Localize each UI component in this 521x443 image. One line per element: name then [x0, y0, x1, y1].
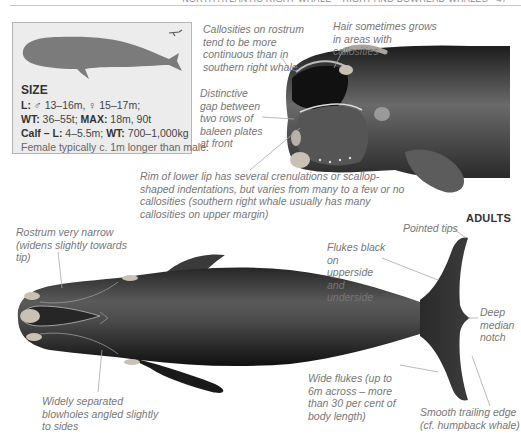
annotation-wide-flukes: Wide flukes (up to 6m across – more than…	[308, 372, 398, 422]
annotation-trailing-edge: Smooth trailing edge (cf. humpback whale…	[420, 406, 520, 431]
annotation-callosities-rostrum: Callosities on rostrum tend to be more c…	[203, 23, 318, 73]
annotation-deep-notch: Deep median notch	[480, 306, 520, 344]
annotation-baleen-gap: Distinctive gap between two rows of bale…	[200, 87, 264, 150]
annotation-hair: Hair sometimes grows in areas with callo…	[333, 20, 438, 58]
annotation-rostrum: Rostrum very narrow (widens slightly tow…	[16, 226, 136, 264]
annotation-flukes-black: Flukes black on upperside and underside	[327, 241, 387, 304]
section-heading-adults: ADULTS	[466, 212, 511, 224]
annotation-pointed-tips: Pointed tips	[403, 222, 463, 235]
annotation-blowholes: Widely separated blowholes angled slight…	[42, 395, 162, 433]
annotation-lower-lip: Rim of lower lip has several crenulation…	[140, 170, 405, 220]
